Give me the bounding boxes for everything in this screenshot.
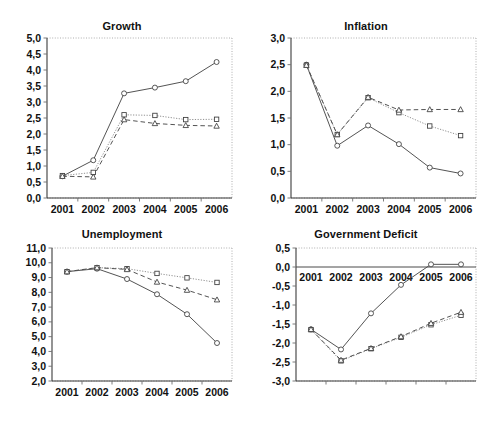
x-tick-label: 2005 (418, 203, 442, 215)
series-line-circle (62, 62, 216, 176)
y-tick-label: -2,0 (272, 337, 290, 349)
data-point-circle (339, 347, 344, 352)
chart-panel-deficit: Government Deficit -3,0-2,5-2,0-1,5-1,0-… (244, 221, 488, 441)
chart-plot-inflation: 0,00,51,01,52,02,53,02001200220032004200… (244, 0, 488, 220)
chart-panel-unemployment: Unemployment 2,03,04,05,06,07,08,09,010,… (0, 221, 244, 441)
series-line-triangle (62, 120, 216, 177)
series-line-triangle (67, 268, 217, 300)
data-point-circle (183, 79, 188, 84)
data-point-square (185, 276, 189, 280)
data-point-circle (215, 341, 220, 346)
y-tick-label: 0,5 (26, 176, 41, 188)
data-point-triangle (458, 309, 463, 314)
x-tick-label: 2001 (299, 271, 323, 283)
y-tick-label: 10,0 (26, 256, 47, 268)
x-tick-label: 2004 (145, 386, 169, 398)
chart-panel-growth: Growth 0,00,51,01,52,02,53,03,54,04,55,0… (0, 0, 244, 220)
y-tick-label: 1,0 (270, 138, 285, 150)
data-point-circle (214, 60, 219, 65)
y-tick-label: -0,5 (272, 280, 290, 292)
chart-plot-unemployment: 2,03,04,05,06,07,08,09,010,011,020012002… (0, 221, 244, 441)
y-tick-label: 0,5 (270, 165, 285, 177)
data-point-circle (122, 91, 127, 96)
chart-plot-growth: 0,00,51,01,52,02,53,03,54,04,55,02001200… (0, 0, 244, 220)
y-tick-label: 1,0 (26, 160, 41, 172)
y-tick-label: 0,0 (26, 192, 41, 204)
x-tick-label: 2001 (51, 203, 75, 215)
x-tick-label: 2002 (329, 271, 353, 283)
data-point-triangle (214, 123, 219, 128)
y-tick-label: 4,0 (26, 64, 41, 76)
x-tick-label: 2006 (205, 386, 229, 398)
data-point-circle (427, 165, 432, 170)
data-point-circle (125, 277, 130, 282)
figure-panel-grid: Growth 0,00,51,01,52,02,53,03,54,04,55,0… (0, 0, 488, 441)
data-point-square (458, 133, 462, 137)
y-tick-label: 2,0 (31, 375, 46, 387)
x-tick-label: 2005 (174, 203, 198, 215)
x-tick-label: 2001 (295, 203, 319, 215)
data-point-circle (91, 158, 96, 163)
y-tick-label: 3,0 (31, 360, 46, 372)
y-tick-label: 2,0 (270, 85, 285, 97)
y-tick-label: 11,0 (26, 242, 46, 254)
y-tick-label: 7,0 (31, 301, 46, 313)
y-tick-label: 3,5 (26, 80, 41, 92)
x-tick-label: 2006 (449, 271, 473, 283)
x-tick-label: 2004 (387, 203, 411, 215)
y-tick-label: 4,0 (31, 345, 46, 357)
x-tick-label: 2003 (359, 271, 383, 283)
y-tick-label: -1,5 (272, 318, 290, 330)
x-tick-label: 2002 (82, 203, 106, 215)
y-tick-label: 1,5 (270, 112, 285, 124)
data-point-circle (396, 142, 401, 147)
y-tick-label: 9,0 (31, 271, 46, 283)
chart-plot-deficit: -3,0-2,5-2,0-1,5-1,0-0,50,00,52001200220… (244, 221, 488, 441)
series-line-square (311, 315, 461, 361)
data-point-circle (459, 262, 464, 267)
data-point-circle (366, 123, 371, 128)
x-tick-label: 2005 (419, 271, 443, 283)
data-point-square (153, 113, 157, 117)
y-tick-label: 2,5 (26, 112, 41, 124)
y-tick-label: 2,0 (26, 128, 41, 140)
x-tick-label: 2001 (55, 386, 79, 398)
y-tick-label: 3,0 (26, 96, 41, 108)
y-tick-label: 5,0 (31, 330, 46, 342)
data-point-circle (429, 262, 434, 267)
y-tick-label: 4,5 (26, 48, 41, 60)
x-tick-label: 2006 (449, 203, 473, 215)
data-point-circle (152, 85, 157, 90)
data-point-circle (369, 311, 374, 316)
data-point-circle (458, 171, 463, 176)
data-point-circle (155, 292, 160, 297)
series-line-circle (67, 269, 217, 343)
series-line-triangle (311, 312, 461, 360)
data-point-triangle (121, 117, 126, 122)
y-tick-label: 0,5 (275, 242, 290, 254)
x-tick-label: 2002 (85, 386, 109, 398)
y-tick-label: 6,0 (31, 315, 46, 327)
x-tick-label: 2004 (143, 203, 167, 215)
data-point-circle (335, 143, 340, 148)
x-tick-label: 2006 (205, 203, 229, 215)
data-point-triangle (458, 107, 463, 112)
y-tick-label: -3,0 (272, 375, 290, 387)
y-tick-label: -1,0 (272, 299, 290, 311)
y-tick-label: 3,0 (270, 32, 285, 44)
y-tick-label: 1,5 (26, 144, 41, 156)
x-tick-label: 2003 (356, 203, 380, 215)
data-point-square (215, 280, 219, 284)
data-point-circle (399, 282, 404, 287)
x-tick-label: 2003 (112, 203, 136, 215)
x-tick-label: 2003 (115, 386, 139, 398)
y-tick-label: 0,0 (275, 261, 290, 273)
y-tick-label: 2,5 (270, 58, 285, 70)
data-point-square (184, 117, 188, 121)
y-tick-label: -2,5 (272, 356, 290, 368)
series-line-circle (306, 65, 460, 174)
x-tick-label: 2005 (175, 386, 199, 398)
series-line-square (62, 115, 216, 176)
x-tick-label: 2004 (389, 271, 413, 283)
data-point-square (428, 124, 432, 128)
